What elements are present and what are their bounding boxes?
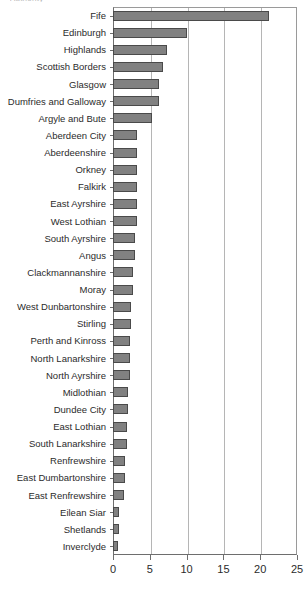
category-tick bbox=[110, 324, 113, 325]
bar bbox=[113, 11, 269, 21]
category-label: Renfrewshire bbox=[0, 452, 110, 469]
bar bbox=[113, 490, 124, 500]
x-axis-tick bbox=[187, 555, 188, 560]
category-tick bbox=[110, 290, 113, 291]
category-tick bbox=[110, 444, 113, 445]
category-tick bbox=[110, 118, 113, 119]
bar-chart: Authority FifeEdinburghHighlandsScottish… bbox=[0, 0, 306, 602]
bar bbox=[113, 113, 152, 123]
x-axis-tick bbox=[223, 555, 224, 560]
x-axis-tick bbox=[150, 555, 151, 560]
category-label: East Lothian bbox=[0, 418, 110, 435]
category-label: Angus bbox=[0, 247, 110, 264]
category-tick bbox=[110, 546, 113, 547]
bar-row bbox=[113, 213, 297, 230]
x-axis-tick-label: 15 bbox=[203, 563, 243, 575]
bar-row bbox=[113, 504, 297, 521]
category-tick bbox=[110, 307, 113, 308]
x-axis-tick bbox=[113, 555, 114, 560]
category-label: East Renfrewshire bbox=[0, 487, 110, 504]
category-label: North Ayrshire bbox=[0, 367, 110, 384]
category-tick bbox=[110, 50, 113, 51]
bar-row bbox=[113, 110, 297, 127]
x-axis-tick-labels: 0510152025 bbox=[0, 563, 306, 583]
bar bbox=[113, 439, 127, 449]
bar-row bbox=[113, 144, 297, 161]
x-axis-tick-label: 25 bbox=[277, 563, 306, 575]
category-label: Dundee City bbox=[0, 401, 110, 418]
bar bbox=[113, 130, 137, 140]
bar-row bbox=[113, 178, 297, 195]
bar bbox=[113, 28, 187, 38]
category-label: Highlands bbox=[0, 41, 110, 58]
bar-row bbox=[113, 487, 297, 504]
bar-row bbox=[113, 298, 297, 315]
category-tick bbox=[110, 170, 113, 171]
category-tick bbox=[110, 33, 113, 34]
category-label: Edinburgh bbox=[0, 24, 110, 41]
bar-row bbox=[113, 452, 297, 469]
bar bbox=[113, 524, 119, 534]
x-axis-tick-label: 20 bbox=[240, 563, 280, 575]
category-tick bbox=[110, 427, 113, 428]
category-tick bbox=[110, 512, 113, 513]
category-tick bbox=[110, 135, 113, 136]
category-label: West Lothian bbox=[0, 213, 110, 230]
category-label: Inverclyde bbox=[0, 538, 110, 555]
category-tick bbox=[110, 101, 113, 102]
bar bbox=[113, 302, 131, 312]
x-axis-tick-label: 10 bbox=[167, 563, 207, 575]
category-label: Shetlands bbox=[0, 521, 110, 538]
bar bbox=[113, 165, 137, 175]
bar-row bbox=[113, 230, 297, 247]
category-label: South Ayrshire bbox=[0, 230, 110, 247]
category-label: South Lanarkshire bbox=[0, 435, 110, 452]
bar bbox=[113, 404, 128, 414]
category-tick bbox=[110, 221, 113, 222]
bar bbox=[113, 336, 130, 346]
x-axis-ticks bbox=[113, 555, 297, 561]
bar bbox=[113, 507, 119, 517]
bar-row bbox=[113, 418, 297, 435]
bar-row bbox=[113, 127, 297, 144]
bar bbox=[113, 233, 135, 243]
x-axis-tick-label: 5 bbox=[130, 563, 170, 575]
bar bbox=[113, 148, 137, 158]
category-tick bbox=[110, 153, 113, 154]
category-tick bbox=[110, 478, 113, 479]
bar-row bbox=[113, 24, 297, 41]
bar-row bbox=[113, 264, 297, 281]
bar-row bbox=[113, 469, 297, 486]
category-label: Glasgow bbox=[0, 76, 110, 93]
category-tick bbox=[110, 392, 113, 393]
category-tick bbox=[110, 255, 113, 256]
bar-row bbox=[113, 281, 297, 298]
bar-row bbox=[113, 350, 297, 367]
x-axis-tick-label: 0 bbox=[93, 563, 133, 575]
category-label: Falkirk bbox=[0, 178, 110, 195]
category-label: East Ayrshire bbox=[0, 195, 110, 212]
bar bbox=[113, 319, 131, 329]
category-label: Clackmannanshire bbox=[0, 264, 110, 281]
category-tick bbox=[110, 529, 113, 530]
category-tick bbox=[110, 341, 113, 342]
category-label: Midlothian bbox=[0, 384, 110, 401]
bar-row bbox=[113, 247, 297, 264]
category-label: Scottish Borders bbox=[0, 58, 110, 75]
bar-row bbox=[113, 195, 297, 212]
bar-row bbox=[113, 93, 297, 110]
bar bbox=[113, 473, 125, 483]
bar-row bbox=[113, 7, 297, 24]
bar bbox=[113, 96, 159, 106]
category-label: Aberdeenshire bbox=[0, 144, 110, 161]
bar-row bbox=[113, 332, 297, 349]
category-tick bbox=[110, 84, 113, 85]
bar bbox=[113, 285, 133, 295]
bar bbox=[113, 353, 130, 363]
bar bbox=[113, 370, 130, 380]
bar bbox=[113, 79, 159, 89]
category-label: Argyle and Bute bbox=[0, 110, 110, 127]
bar bbox=[113, 182, 137, 192]
category-label: Fife bbox=[0, 7, 110, 24]
category-label: East Dumbartonshire bbox=[0, 469, 110, 486]
